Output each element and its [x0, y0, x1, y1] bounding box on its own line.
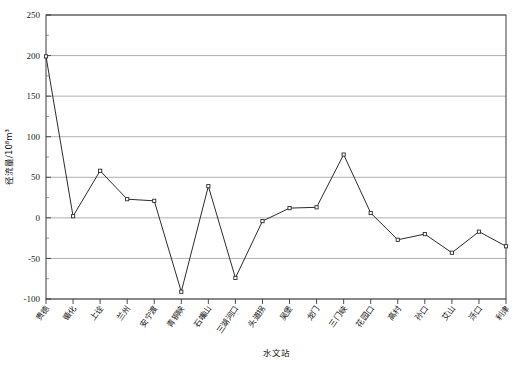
y-axis-title: 径流量/10⁸m³ — [4, 129, 14, 185]
y-axis-tick-label: 0 — [36, 213, 41, 223]
data-point-marker — [234, 276, 237, 279]
x-axis-category-label: 吴堡 — [277, 303, 294, 322]
data-point-marker — [71, 215, 74, 218]
y-axis-tick-label: -100 — [24, 294, 41, 304]
data-point-marker — [477, 230, 480, 233]
runoff-line-chart: -100-50050100150200250贵德循化上诠兰州安宁渡青铜峡石嘴山三… — [0, 0, 522, 365]
x-axis-category-label: 龙门 — [304, 303, 321, 322]
x-axis-category-label: 高村 — [386, 303, 403, 322]
y-axis-tick-label: 150 — [27, 91, 41, 101]
y-axis-tick-label: 250 — [27, 10, 41, 20]
series-line-runoff — [46, 56, 506, 291]
x-axis-category-label: 头道拐 — [246, 303, 268, 328]
x-axis-category-label: 循化 — [61, 303, 78, 322]
y-axis-tick-label: 100 — [27, 132, 41, 142]
y-axis-tick-label: -50 — [28, 254, 40, 264]
x-axis-category-label: 三湖河口 — [214, 303, 241, 335]
data-point-marker — [342, 153, 345, 156]
data-point-marker — [369, 211, 372, 214]
x-axis-category-label: 安宁渡 — [137, 303, 159, 328]
y-axis-tick-label: 50 — [31, 172, 41, 182]
x-axis-category-label: 青铜峡 — [164, 303, 186, 328]
x-axis-category-label: 利津 — [494, 303, 511, 322]
x-axis-category-label: 花园口 — [354, 303, 376, 328]
data-point-marker — [396, 238, 399, 241]
data-point-marker — [261, 220, 264, 223]
data-point-marker — [44, 55, 47, 58]
x-axis-category-label: 孙口 — [413, 303, 430, 322]
data-point-marker — [288, 207, 291, 210]
data-point-marker — [315, 206, 318, 209]
x-axis-category-label: 三门峡 — [327, 303, 349, 328]
x-axis-category-label: 泺口 — [467, 303, 484, 322]
plot-frame — [46, 15, 506, 299]
x-axis-category-label: 兰州 — [115, 303, 132, 322]
x-axis-category-label: 贵德 — [34, 303, 51, 322]
data-point-marker — [504, 245, 507, 248]
data-point-marker — [207, 185, 210, 188]
data-point-marker — [126, 198, 129, 201]
x-axis-category-label: 石嘴山 — [192, 303, 214, 328]
data-point-marker — [450, 251, 453, 254]
data-point-marker — [180, 290, 183, 293]
data-point-marker — [153, 199, 156, 202]
data-point-marker — [99, 169, 102, 172]
x-axis-category-label: 艾山 — [440, 303, 457, 322]
chart-canvas: -100-50050100150200250贵德循化上诠兰州安宁渡青铜峡石嘴山三… — [0, 0, 522, 365]
y-axis-tick-label: 200 — [27, 51, 41, 61]
data-point-marker — [423, 232, 426, 235]
x-axis-title: 水文站 — [263, 348, 290, 358]
x-axis-category-label: 上诠 — [88, 303, 105, 322]
